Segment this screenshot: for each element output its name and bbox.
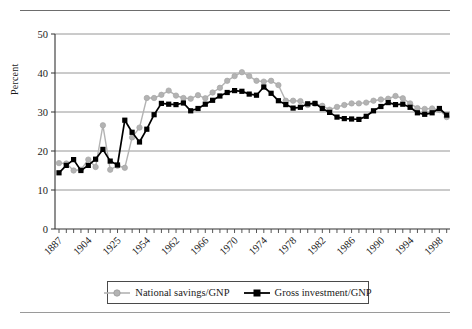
x-tick-label: 1904	[71, 234, 94, 257]
data-point-square	[408, 105, 413, 110]
data-point-square	[349, 116, 354, 121]
legend-item-national-savings[interactable]: National savings/GNP	[104, 287, 229, 299]
data-point-circle	[247, 73, 252, 78]
data-point-square	[64, 163, 69, 168]
data-point-circle	[254, 78, 259, 83]
x-tick-label: 1998	[422, 235, 445, 258]
data-point-square	[166, 102, 171, 107]
data-point-square	[181, 100, 186, 105]
data-point-square	[312, 101, 317, 106]
data-point-circle	[378, 97, 383, 102]
data-point-square	[195, 106, 200, 111]
data-point-circle	[261, 79, 266, 84]
data-point-square	[159, 101, 164, 106]
data-point-square	[334, 115, 339, 120]
data-point-square	[327, 110, 332, 115]
x-tick-label: 1954	[130, 234, 153, 257]
data-point-square	[108, 159, 113, 164]
x-tick-label: 1887	[42, 235, 65, 258]
data-point-circle	[159, 92, 164, 97]
data-point-square	[444, 113, 449, 118]
data-point-square	[437, 106, 442, 111]
data-point-circle	[181, 95, 186, 100]
data-point-circle	[100, 123, 105, 128]
data-point-circle	[371, 98, 376, 103]
data-point-square	[144, 127, 149, 132]
data-point-square	[115, 162, 120, 167]
data-point-square	[71, 157, 76, 162]
legend-label-gross-investment: Gross investment/GNP	[275, 287, 372, 298]
legend-marker-circle-icon	[104, 287, 130, 299]
data-point-square	[430, 110, 435, 115]
data-point-circle	[268, 78, 273, 83]
data-point-square	[254, 93, 259, 98]
data-point-square	[371, 108, 376, 113]
data-point-square	[210, 98, 215, 103]
data-point-circle	[151, 95, 156, 100]
data-point-circle	[239, 70, 244, 75]
data-point-square	[386, 100, 391, 105]
data-point-circle	[349, 101, 354, 106]
data-point-circle	[290, 98, 295, 103]
x-tick-label: 1925	[100, 235, 123, 258]
x-tick-label: 1974	[247, 234, 270, 257]
data-point-circle	[276, 82, 281, 87]
data-point-square	[298, 105, 303, 110]
x-tick-label: 1994	[393, 234, 416, 257]
y-tick-label: 30	[38, 107, 49, 118]
data-point-circle	[122, 165, 127, 170]
data-point-circle	[56, 160, 61, 165]
data-point-circle	[173, 93, 178, 98]
data-point-circle	[71, 168, 76, 173]
data-point-square	[400, 102, 405, 107]
y-tick-label: 10	[38, 185, 49, 196]
data-point-circle	[232, 73, 237, 78]
legend-label-national-savings: National savings/GNP	[135, 287, 229, 298]
data-point-circle	[422, 106, 427, 111]
legend-marker-square-icon	[244, 287, 270, 299]
data-point-circle	[144, 95, 149, 100]
x-tick-label: 1962	[159, 235, 182, 258]
data-point-square	[239, 89, 244, 94]
data-point-square	[122, 118, 127, 123]
data-point-square	[356, 117, 361, 122]
data-point-square	[422, 112, 427, 117]
data-point-square	[232, 88, 237, 93]
data-point-circle	[298, 98, 303, 103]
data-point-square	[342, 116, 347, 121]
data-point-circle	[137, 125, 142, 130]
series-line-1	[59, 72, 447, 170]
data-point-square	[291, 106, 296, 111]
data-point-square	[217, 93, 222, 98]
data-point-square	[78, 168, 83, 173]
data-point-circle	[188, 96, 193, 101]
data-point-square	[137, 139, 142, 144]
legend-item-gross-investment[interactable]: Gross investment/GNP	[244, 287, 372, 299]
data-point-circle	[225, 78, 230, 83]
data-point-circle	[217, 85, 222, 90]
data-point-circle	[364, 100, 369, 105]
data-point-circle	[108, 167, 113, 172]
data-point-circle	[334, 104, 339, 109]
x-tick-label: 1990	[364, 235, 387, 258]
data-point-circle	[400, 96, 405, 101]
x-tick-label: 1986	[334, 235, 357, 258]
chart-legend: National savings/GNP Gross investment/GN…	[107, 281, 369, 304]
data-point-circle	[203, 96, 208, 101]
data-point-circle	[415, 105, 420, 110]
data-point-square	[393, 102, 398, 107]
data-point-square	[152, 112, 157, 117]
data-point-square	[378, 104, 383, 109]
y-tick-label: 50	[38, 29, 49, 40]
data-point-circle	[342, 102, 347, 107]
data-point-square	[188, 108, 193, 113]
data-point-square	[276, 98, 281, 103]
y-axis-label: Percent	[9, 64, 20, 95]
x-tick-label: 1982	[305, 235, 328, 258]
y-tick-label: 20	[38, 146, 49, 157]
data-point-square	[93, 157, 98, 162]
data-point-square	[173, 102, 178, 107]
data-point-square	[415, 110, 420, 115]
data-point-square	[305, 101, 310, 106]
x-tick-label: 1966	[188, 235, 211, 258]
